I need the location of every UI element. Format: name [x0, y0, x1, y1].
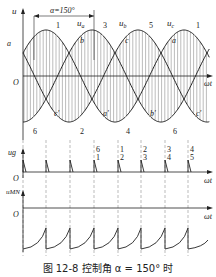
peak-number: 5 [149, 21, 153, 30]
alpha-label: α=150° [50, 6, 76, 15]
cross-label-lower: b' [150, 109, 156, 118]
y-label-u: u [12, 6, 17, 16]
alpha-arrow-right-icon [89, 14, 94, 18]
pulse-decay [23, 160, 26, 172]
cross-label-lower: c' [196, 109, 202, 118]
cross-label-lower: c' [54, 109, 60, 118]
pulse-pair-bottom: 1 [96, 153, 100, 162]
cross-label-upper: a [7, 39, 11, 48]
phase-label-uc: uc [167, 18, 175, 29]
dashed-guides [23, 140, 188, 256]
gate-pulses: 6112233445 [23, 145, 194, 172]
pulse-pair-bottom: 5 [190, 153, 194, 162]
y-label-umn: uMN [6, 188, 20, 196]
umn-axis-arrow-icon [21, 190, 25, 196]
peak-number: 1 [56, 21, 60, 30]
cross-label-upper: a [172, 36, 176, 45]
trough-number: 4 [126, 127, 130, 136]
x-label-umn: ωt [204, 212, 213, 221]
phase-label-ua: ua [77, 18, 85, 29]
phase-label-ub: ub [119, 18, 127, 29]
y-label-ug: ug [8, 148, 16, 157]
cross-label-upper: b [80, 36, 84, 45]
y-axis-arrow-icon [21, 8, 25, 14]
trough-number: 6 [33, 127, 37, 136]
x-axis-arrow-icon [207, 74, 213, 78]
cross-label-lower: a' [103, 109, 109, 118]
top-panel-labels: abcac'a'b'c'13516246uaubuc [7, 18, 202, 136]
ug-x-arrow-icon [207, 170, 213, 174]
x-label-ug: ωt [204, 176, 213, 185]
umn-sawtooth-waveform [23, 228, 208, 249]
origin-label-umn: O [13, 210, 19, 219]
origin-label: O [13, 78, 19, 87]
pulse-pair-bottom: 4 [167, 153, 171, 162]
umn-x-arrow-icon [207, 206, 213, 210]
pulse-pair-bottom: 3 [143, 153, 147, 162]
origin-label-ug: O [13, 174, 19, 183]
trough-number: 6 [173, 127, 177, 136]
figure-caption: 图 12-8 控制角 α = 150° 时 [0, 260, 216, 275]
alpha-arrow-left-icon [34, 14, 39, 18]
trough-number: 2 [80, 127, 84, 136]
x-label-wt: ωt [204, 79, 213, 88]
waveform-diagram: u O ωt α=150° abcac'a'b'c'13516246uaubuc… [0, 0, 216, 277]
cross-label-upper: c [125, 36, 129, 45]
pulse-pair-bottom: 2 [120, 153, 124, 162]
peak-number: 1 [196, 21, 200, 30]
peak-number: 3 [103, 21, 107, 30]
ug-axis-arrow-icon [21, 148, 25, 154]
